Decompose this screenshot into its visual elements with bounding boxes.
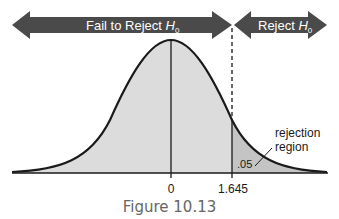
- rejection-label-line2: region: [275, 140, 308, 154]
- reject-label: Reject H0: [258, 18, 313, 35]
- hypothesis-test-diagram: Fail to Reject H0 Reject H0 0 1.645 reje…: [0, 0, 339, 219]
- fail-to-reject-label: Fail to Reject H0: [86, 18, 180, 35]
- axis-label-critical: 1.645: [218, 182, 248, 196]
- axis-label-0: 0: [168, 182, 175, 196]
- rejection-label-line1: rejection: [275, 126, 320, 140]
- figure-caption: Figure 10.13: [0, 198, 339, 216]
- alpha-label: .05: [237, 158, 252, 170]
